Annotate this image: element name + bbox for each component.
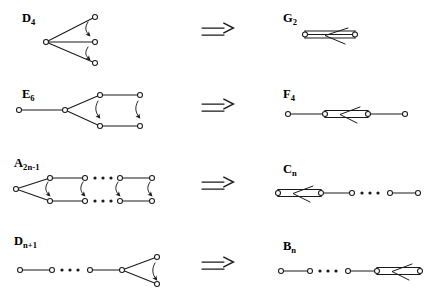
- diagram-bn: [279, 264, 423, 280]
- a2n1-ellipsis-bottom: [93, 199, 112, 202]
- diagram-d4: [46, 17, 95, 63]
- diagram-g2: [303, 28, 358, 44]
- implication-arrow-1: [202, 28, 224, 35]
- d4-nodes: [44, 15, 98, 66]
- diagram-f4: [286, 107, 408, 123]
- implication-arrow-4: [202, 262, 224, 269]
- diagram-cn: [276, 186, 421, 202]
- a2n1-nodes: [14, 176, 155, 204]
- cn-ellipsis: [360, 191, 379, 194]
- g2-bond-arrowhead: [325, 28, 348, 44]
- diagram-canvas: [0, 0, 437, 301]
- bn-bond-arrowhead: [392, 264, 412, 280]
- implication-arrow-3: [202, 182, 224, 189]
- f4-bond-arrowhead: [340, 107, 360, 123]
- dynkin-folding-figure: D4 G2 E6 F4 A2n-1 Cn Dn+1 Bn: [0, 0, 437, 301]
- g2-triple-bond: [305, 31, 355, 38]
- cn-bond-arrowhead: [293, 186, 313, 202]
- diagram-a2n1: [16, 178, 152, 201]
- a2n1-ellipsis-top: [93, 176, 112, 179]
- implication-arrow-2: [202, 104, 224, 111]
- diagram-e6: [19, 95, 140, 126]
- bn-ellipsis: [318, 269, 337, 272]
- dn1-ellipsis: [60, 268, 79, 271]
